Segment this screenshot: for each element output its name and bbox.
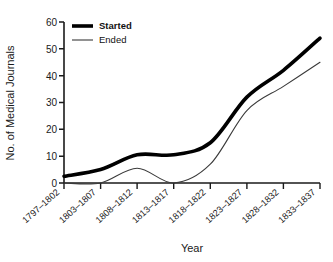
- legend-label-started: Started: [99, 20, 132, 31]
- y-axis-title: No. of Medical Journals: [4, 45, 16, 160]
- y-tick-label: 60: [46, 17, 58, 28]
- chart-canvas: No. of Medical Journals 60 50 40 30 20 1…: [0, 0, 333, 262]
- y-tick-label: 30: [46, 97, 58, 108]
- x-axis-title: Year: [181, 242, 204, 254]
- y-tick-label: 10: [46, 151, 58, 162]
- legend-label-ended: Ended: [99, 34, 126, 45]
- y-tick-label: 40: [46, 71, 58, 82]
- y-tick-label: 20: [46, 124, 58, 135]
- medical-journals-line-chart: No. of Medical Journals 60 50 40 30 20 1…: [0, 0, 333, 262]
- y-tick-label: 50: [46, 44, 58, 55]
